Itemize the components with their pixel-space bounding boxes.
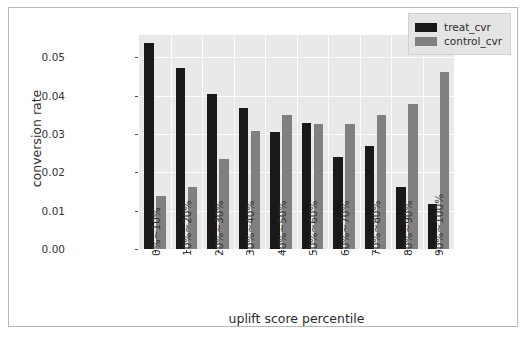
x-tick-label: 40%~50%: [276, 201, 288, 256]
y-tick-mark: [135, 249, 138, 250]
x-gridline: [297, 35, 298, 249]
x-axis-label: uplift score percentile: [139, 311, 454, 326]
y-tick-mark: [135, 172, 138, 173]
x-gridline: [423, 35, 424, 249]
y-tick-mark: [135, 57, 138, 58]
y-tick-label: 0.05: [5, 51, 65, 63]
x-gridline: [202, 35, 203, 249]
x-tick-label: 10%~20%: [181, 201, 193, 256]
x-gridline: [391, 35, 392, 249]
y-tick-label: 0.01: [5, 205, 65, 217]
chart-legend: treat_cvr control_cvr: [408, 13, 511, 55]
x-tick-label: 30%~40%: [244, 201, 256, 256]
y-tick-label: 0.00: [5, 243, 65, 255]
legend-item-treat: treat_cvr: [415, 21, 502, 33]
legend-swatch-treat: [415, 23, 437, 32]
x-tick-label: 80%~90%: [402, 201, 414, 256]
legend-swatch-control: [415, 37, 437, 46]
y-tick-mark: [135, 96, 138, 97]
x-gridline: [171, 35, 172, 249]
x-gridline: [265, 35, 266, 249]
x-tick-label: 20%~30%: [213, 201, 225, 256]
x-gridline: [328, 35, 329, 249]
legend-label-treat: treat_cvr: [444, 21, 491, 33]
x-tick-label: 90%~100%: [433, 194, 445, 256]
x-tick-label: 60%~70%: [339, 201, 351, 256]
legend-label-control: control_cvr: [444, 35, 502, 47]
y-tick-label: 0.04: [5, 90, 65, 102]
legend-item-control: control_cvr: [415, 35, 502, 47]
figure-caption: [10, 338, 340, 346]
x-tick-label: 0%~10%: [150, 207, 162, 256]
x-gridline: [234, 35, 235, 249]
x-tick-label: 50%~60%: [307, 201, 319, 256]
y-tick-mark: [135, 134, 138, 135]
x-tick-label: 70%~80%: [370, 201, 382, 256]
figure-frame: conversion rate uplift score percentile …: [8, 7, 518, 327]
y-tick-label: 0.03: [5, 128, 65, 140]
y-tick-mark: [135, 211, 138, 212]
y-tick-label: 0.02: [5, 166, 65, 178]
x-gridline: [360, 35, 361, 249]
